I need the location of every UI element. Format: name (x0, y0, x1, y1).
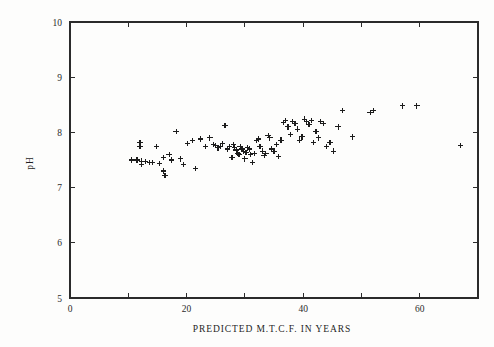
data-point (193, 166, 198, 171)
data-point (178, 156, 183, 161)
data-point (327, 140, 332, 145)
data-point (251, 151, 256, 156)
y-tick-label: 7 (57, 183, 62, 193)
data-point (331, 148, 336, 153)
data-point (169, 157, 174, 162)
data-point-layer (129, 103, 464, 178)
data-point (248, 152, 253, 157)
x-axis-label: PREDICTED M.T.C.F. IN YEARS (193, 324, 351, 334)
data-point (161, 155, 166, 160)
data-point (335, 124, 340, 129)
x-tick-label: 60 (415, 304, 425, 314)
data-point (222, 123, 227, 128)
data-point (129, 157, 134, 162)
data-point (229, 155, 234, 160)
y-tick-label: 5 (57, 294, 62, 304)
data-point (350, 134, 355, 139)
data-point (190, 138, 195, 143)
data-point (203, 144, 208, 149)
y-axis-ticks: 5678910 (53, 18, 479, 304)
y-tick-label: 9 (57, 73, 62, 83)
scatter-plot: 0204060 5678910 PREDICTED M.T.C.F. IN YE… (0, 0, 494, 347)
data-point (242, 156, 247, 161)
data-point (276, 154, 281, 159)
data-point (313, 129, 318, 134)
data-point (400, 103, 405, 108)
figure-canvas: 0204060 5678910 PREDICTED M.T.C.F. IN YE… (0, 0, 494, 347)
data-point (166, 152, 171, 157)
data-point (285, 124, 290, 129)
y-tick-label: 10 (53, 18, 63, 28)
x-axis-ticks: 0204060 (68, 22, 478, 314)
data-point (295, 126, 300, 131)
data-point (340, 108, 345, 113)
data-point (139, 162, 144, 167)
data-point (324, 144, 329, 149)
data-point (250, 160, 255, 165)
data-point (311, 140, 316, 145)
x-tick-label: 0 (68, 304, 73, 314)
data-point (137, 144, 142, 149)
data-point (414, 103, 419, 108)
data-point (181, 162, 186, 167)
data-point (274, 142, 279, 147)
data-point (154, 144, 159, 149)
y-tick-label: 8 (57, 128, 62, 138)
data-point (236, 152, 241, 157)
data-point (198, 136, 203, 141)
data-point (157, 161, 162, 166)
data-point (278, 137, 283, 142)
data-point (134, 157, 139, 162)
y-tick-label: 6 (57, 238, 62, 248)
data-point (458, 143, 463, 148)
data-point (288, 132, 293, 137)
y-axis-label: pH (25, 156, 35, 169)
x-tick-label: 40 (298, 304, 308, 314)
data-point (150, 160, 155, 165)
x-tick-label: 20 (182, 304, 192, 314)
data-point (185, 141, 190, 146)
data-point (207, 135, 212, 140)
data-point (173, 129, 178, 134)
data-point (316, 135, 321, 140)
